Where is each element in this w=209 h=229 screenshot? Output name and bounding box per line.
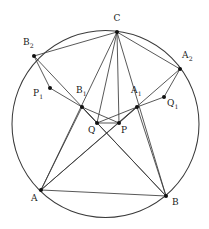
point-a2-dot xyxy=(178,67,182,71)
segment-A2-Q1 xyxy=(164,69,180,97)
cevian-B-A1 xyxy=(137,107,166,196)
cevian-C-Q xyxy=(97,32,117,123)
label-a1-text: A xyxy=(131,85,138,95)
point-a1-dot xyxy=(135,105,139,109)
label-b1: B1 xyxy=(76,86,87,97)
label-q1-text: Q xyxy=(167,98,175,108)
label-p1: P1 xyxy=(33,89,43,100)
point-c-dot xyxy=(115,30,119,34)
label-a-text: A xyxy=(31,193,38,203)
label-p-text: P xyxy=(121,125,127,135)
label-q1: Q1 xyxy=(167,99,179,110)
cevian-A-B1 xyxy=(41,107,82,190)
point-p1-dot xyxy=(48,86,52,90)
geometry-figure: CB2A2P1B1A1Q1QPAB xyxy=(0,0,209,229)
point-a-dot xyxy=(39,188,43,192)
segment-A1-Q xyxy=(97,107,137,123)
label-c-text: C xyxy=(114,13,121,23)
label-b1-text: B xyxy=(76,85,83,95)
segment-A1-P xyxy=(119,107,137,123)
label-b2-text: B xyxy=(23,37,30,47)
label-b-text: B xyxy=(172,197,179,207)
label-p: P xyxy=(121,126,127,135)
segment-B1-Q xyxy=(82,107,97,123)
label-p1-subscript: 1 xyxy=(39,93,43,100)
cevian-B-B2 xyxy=(34,56,166,196)
point-b-dot xyxy=(164,194,168,198)
point-b2-dot xyxy=(32,54,36,58)
label-q1-subscript: 1 xyxy=(175,103,179,110)
label-b2: B2 xyxy=(23,38,34,49)
label-b1-subscript: 1 xyxy=(83,90,87,97)
label-c: C xyxy=(114,14,121,23)
label-b2-subscript: 2 xyxy=(30,42,34,49)
side-AB xyxy=(41,190,166,196)
label-q: Q xyxy=(88,126,96,135)
point-q-dot xyxy=(95,121,99,125)
segment-B1-P xyxy=(82,107,119,123)
label-q-text: Q xyxy=(88,125,96,135)
segment-B2-P1 xyxy=(34,56,50,88)
label-a2-text: A xyxy=(182,50,189,60)
label-b: B xyxy=(172,198,179,207)
label-a1: A1 xyxy=(131,86,142,97)
point-q1-dot xyxy=(162,95,166,99)
segments-layer xyxy=(34,32,180,196)
label-a1-subscript: 1 xyxy=(138,90,142,97)
segment-A1-Q1 xyxy=(137,97,164,107)
point-b1-dot xyxy=(80,105,84,109)
cevian-C-P xyxy=(117,32,119,123)
label-a2: A2 xyxy=(182,51,193,62)
label-a: A xyxy=(31,194,38,203)
label-a2-subscript: 2 xyxy=(189,55,193,62)
